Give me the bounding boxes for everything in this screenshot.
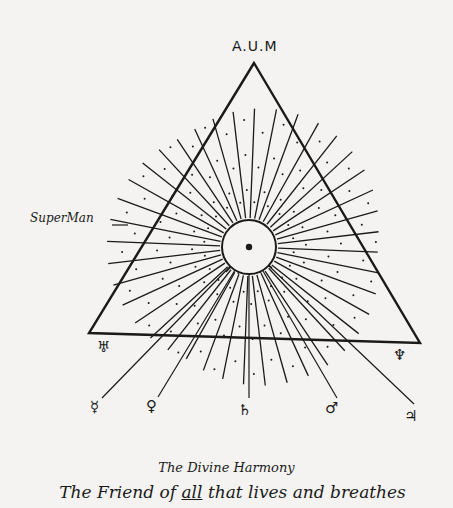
planet-line (249, 247, 414, 404)
dot (267, 205, 269, 207)
dot (296, 142, 298, 144)
dot (213, 201, 215, 203)
dot (337, 271, 339, 273)
dot (304, 346, 306, 348)
dot (148, 302, 150, 304)
dot (334, 214, 336, 216)
dot (209, 268, 211, 270)
subtitle-before: The Friend of (59, 482, 181, 502)
dot (268, 299, 270, 301)
dot (197, 322, 199, 324)
dot (283, 291, 285, 293)
dot (367, 202, 369, 204)
dot (239, 202, 241, 204)
dot (273, 157, 275, 159)
dot (250, 303, 252, 305)
dot (348, 190, 350, 192)
ray (108, 250, 220, 263)
dot (156, 250, 158, 252)
dot (305, 244, 307, 246)
dot (321, 280, 323, 282)
dot (201, 214, 203, 216)
dot (129, 290, 131, 292)
dot (126, 211, 128, 213)
dot (203, 281, 205, 283)
ray (252, 276, 265, 386)
dot (226, 207, 228, 209)
dot (324, 297, 326, 299)
dot (293, 251, 295, 253)
dot (253, 201, 255, 203)
ray (233, 112, 246, 218)
dot (200, 350, 202, 352)
dot (327, 255, 329, 257)
dot (144, 198, 146, 200)
dot (215, 215, 217, 217)
uranus-symbol-icon: ♅ (97, 340, 110, 355)
dot (354, 317, 356, 319)
dot (177, 352, 179, 354)
dot (301, 226, 303, 228)
dot (280, 332, 282, 334)
dot (292, 237, 294, 239)
dot (243, 291, 245, 293)
dot (175, 212, 177, 214)
ray (113, 255, 221, 285)
dot (295, 278, 297, 280)
diagram-title: The Divine Harmony (0, 460, 453, 475)
dot (134, 232, 136, 234)
dot (375, 241, 377, 243)
dot (340, 242, 342, 244)
dot (326, 162, 328, 164)
diagram-subtitle: The Friend of all that lives and breathe… (6, 482, 453, 502)
dot (213, 368, 215, 370)
dot (234, 360, 236, 362)
dot (299, 170, 301, 172)
mercury-symbol-icon: ☿ (90, 400, 99, 415)
venus-symbol-icon: ♀ (146, 399, 157, 414)
dot (246, 189, 248, 191)
dot (327, 346, 329, 348)
dot (262, 132, 264, 134)
ray (270, 152, 352, 228)
dot (280, 199, 282, 201)
ray (257, 275, 287, 383)
dot (164, 168, 166, 170)
dot (191, 248, 193, 250)
dot (289, 265, 291, 267)
dot (228, 193, 230, 195)
apex-label: A.U.M (232, 38, 278, 54)
subtitle-underlined: all (181, 482, 202, 502)
dot (348, 167, 350, 169)
dot (207, 227, 209, 229)
dot (216, 160, 218, 162)
dot (170, 262, 172, 264)
dot (283, 124, 285, 126)
jupiter-symbol-icon: ♃ (404, 409, 417, 424)
dot (195, 266, 197, 268)
dot (318, 207, 320, 209)
dot (192, 146, 194, 148)
planet-line (102, 247, 249, 398)
dot (169, 146, 171, 148)
dot (232, 301, 234, 303)
dot (293, 211, 295, 213)
dot (243, 119, 245, 121)
dot (292, 365, 294, 367)
dot (178, 285, 180, 287)
dot (170, 330, 172, 332)
dot (169, 237, 171, 239)
saturn-symbol-icon: ♄ (238, 403, 251, 418)
subtitle-after: that lives and breathes (202, 482, 405, 502)
dot (253, 373, 255, 375)
dot (193, 230, 195, 232)
dot (287, 224, 289, 226)
dot (176, 303, 178, 305)
ray (186, 272, 235, 359)
dot (209, 176, 211, 178)
dot (320, 189, 322, 191)
dot (214, 319, 216, 321)
dot (204, 255, 206, 257)
dot (229, 287, 231, 289)
dot (204, 127, 206, 129)
